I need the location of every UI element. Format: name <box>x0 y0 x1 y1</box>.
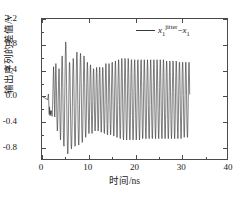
y-tick-label: 0.0 <box>6 91 17 100</box>
x-tick-label: 0 <box>21 163 61 172</box>
y-tick-label: -0.4 <box>3 117 17 126</box>
y-axis-tick <box>42 71 46 72</box>
y-axis-tick <box>42 148 46 149</box>
x-tick-label: 40 <box>208 163 248 172</box>
y-axis-minor-tick <box>42 84 44 85</box>
y-axis-minor-tick <box>42 32 44 33</box>
x-axis-minor-tick <box>206 157 207 159</box>
y-tick-label: 0.8 <box>6 39 17 48</box>
legend-label: x1jitter−x1 <box>158 22 190 39</box>
legend: x1jitter−x1 <box>134 21 192 40</box>
y-tick-label: -0.8 <box>3 143 17 152</box>
x-axis-minor-tick <box>159 157 160 159</box>
y-axis-tick-right <box>223 96 227 97</box>
y-axis-minor-tick <box>42 135 44 136</box>
figure-container: 输出序列的差值/V 1.2 0.8 0.4 0.0 -0.4 -0.8 0 10… <box>0 0 249 201</box>
y-axis-tick <box>42 96 46 97</box>
x-axis-tick <box>182 155 183 159</box>
y-axis-tick-right <box>223 122 227 123</box>
x-axis-minor-tick <box>65 157 66 159</box>
x-tick-label: 30 <box>161 163 201 172</box>
y-tick-label: 0.4 <box>6 65 17 74</box>
y-tick-label: 1.2 <box>6 14 17 23</box>
x-axis-minor-tick <box>112 157 113 159</box>
y-axis-tick-right <box>223 45 227 46</box>
legend-line-swatch <box>136 30 155 31</box>
x-tick-label: 10 <box>68 163 108 172</box>
x-axis-tick-top <box>42 19 43 23</box>
data-series-line <box>42 19 227 159</box>
x-axis-tick <box>136 155 137 159</box>
y-axis-minor-tick <box>42 109 44 110</box>
x-axis-tick <box>42 155 43 159</box>
x-axis-title: 时间/ns <box>0 176 249 186</box>
y-axis-tick <box>42 122 46 123</box>
x-axis-tick-top <box>89 19 90 23</box>
x-tick-label: 20 <box>115 163 155 172</box>
y-axis-tick-right <box>223 19 227 20</box>
y-axis-tick <box>42 45 46 46</box>
x-axis-tick <box>89 155 90 159</box>
y-axis-tick-right <box>223 71 227 72</box>
y-axis-minor-tick <box>42 58 44 59</box>
y-axis-tick-right <box>223 148 227 149</box>
